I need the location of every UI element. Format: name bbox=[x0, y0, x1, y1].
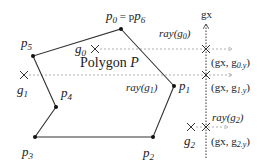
vertex-label-p0: p0 = pp6 bbox=[105, 8, 146, 25]
vertex-label-p3: p3 bbox=[21, 144, 34, 161]
vertex-label-p1: p1 bbox=[178, 78, 190, 95]
polygon-ray-diagram: gx p0 = pp6 p5 p4 p3 p2 p1 Polygon P g0 … bbox=[0, 0, 267, 167]
g1-label: g1 bbox=[17, 82, 28, 99]
polygon-title: Polygon P bbox=[80, 55, 139, 70]
g2-marker-icon bbox=[187, 123, 195, 131]
vertex-label-p5: p5 bbox=[20, 35, 33, 52]
intersect-label-g2: (gx, g2.y) bbox=[211, 135, 250, 149]
g0-marker-icon bbox=[91, 45, 99, 53]
g1-marker-icon bbox=[20, 71, 28, 79]
vertex-label-p4: p4 bbox=[60, 85, 73, 102]
intersect-label-g1: (gx, g1.y) bbox=[211, 81, 250, 95]
ray-label-g1: ray(g1) bbox=[126, 81, 158, 95]
gx-label: gx bbox=[201, 8, 213, 20]
ray-label-g0: ray(g0) bbox=[159, 27, 191, 41]
g0-label: g0 bbox=[75, 41, 87, 58]
vertex-label-p2: p2 bbox=[142, 145, 155, 162]
g2-label: g2 bbox=[184, 133, 196, 150]
intersect-label-g0: (gx, g0.y) bbox=[211, 56, 250, 70]
ray-label-g2: ray(g2) bbox=[212, 111, 244, 125]
